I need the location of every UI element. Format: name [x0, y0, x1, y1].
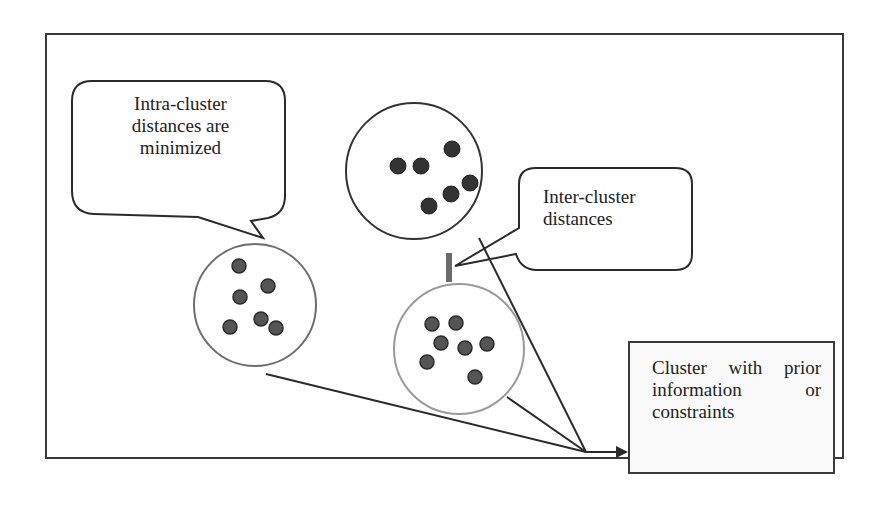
intra-label-line-1: Intra-cluster: [98, 93, 263, 115]
bottom-cluster: [394, 284, 524, 414]
inter-cluster-label: Inter-cluster distances: [543, 186, 703, 230]
clustering-diagram: Intra-cluster distances are minimized In…: [0, 0, 886, 514]
inter-label-line-1: Inter-cluster: [543, 186, 703, 208]
constraint-line-3: constraints: [652, 401, 821, 423]
top-cluster: [346, 103, 482, 239]
constraint-line-2: information or: [652, 379, 821, 401]
intra-label-line-3: minimized: [98, 137, 263, 159]
inter-label-line-2: distances: [543, 208, 703, 230]
intra-label-line-2: distances are: [98, 115, 263, 137]
inter-cluster-distance-marker: [446, 253, 452, 282]
constraint-line-1: Cluster with prior: [652, 357, 821, 379]
intra-cluster-label: Intra-cluster distances are minimized: [98, 93, 263, 159]
constraint-box: Cluster with prior information or constr…: [628, 341, 835, 474]
left-cluster: [194, 244, 316, 366]
